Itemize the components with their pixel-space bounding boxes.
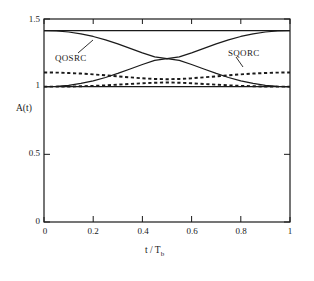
y-tick-label-1: 1 [22, 80, 40, 90]
qosrc-leader-line [78, 40, 93, 53]
x-tick-label-0-6: 0.6 [185, 226, 199, 236]
x-axis-title: t / Tb [145, 245, 164, 260]
curve-label-sqorc: SQORC [228, 48, 260, 58]
x-tick-label-0-8: 0.8 [234, 226, 248, 236]
curve-label-qosrc: QOSRC [55, 53, 87, 63]
annotation-leader-lines [78, 40, 243, 67]
y-tick-label-1-5: 1.5 [22, 14, 40, 24]
x-axis-title-subscript: b [161, 250, 165, 258]
y-axis-title: A(t) [16, 103, 32, 114]
plot-canvas [0, 0, 314, 281]
x-axis-title-main: t / T [145, 245, 161, 255]
x-tick-label-0-2: 0.2 [86, 226, 100, 236]
y-tick-label-0-5: 0.5 [18, 148, 40, 158]
x-tick-label-0-4: 0.4 [136, 226, 150, 236]
series-4 [44, 72, 290, 79]
x-tick-label-1: 1 [283, 226, 297, 236]
y-tick-label-0: 0 [22, 216, 40, 226]
sqorc-leader-line [236, 57, 243, 67]
x-tick-label-0: 0 [38, 226, 52, 236]
chart-figure: 1.5 1 0.5 0 A(t) 0 0.2 0.4 0.6 0.8 1 t /… [0, 0, 314, 281]
